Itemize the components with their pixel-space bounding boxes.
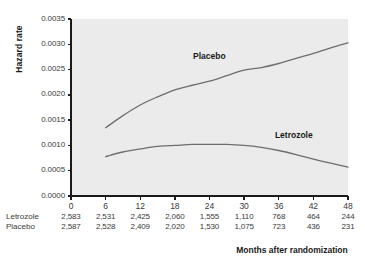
x-axis-title: Months after randomization [222, 245, 362, 255]
series-label-placebo: Placebo [193, 51, 226, 61]
risk-cell: 231 [331, 222, 365, 231]
x-tick-label: 12 [125, 201, 155, 211]
risk-cell: 436 [296, 222, 330, 231]
risk-cell: 2,060 [158, 212, 192, 221]
risk-cell: 2,020 [158, 222, 192, 231]
risk-cell: 244 [331, 212, 365, 221]
y-tick-label: 0.0020 [23, 89, 65, 98]
y-tick-label: 0.0015 [23, 115, 65, 124]
risk-cell: 2,587 [54, 222, 88, 231]
y-tick-label: 0.0000 [23, 191, 65, 200]
risk-cell: 464 [296, 212, 330, 221]
x-tick-label: 0 [56, 201, 86, 211]
risk-cell: 1,555 [193, 212, 227, 221]
hazard-rate-chart: Hazard rate 0.00000.00050.00100.00150.00… [0, 0, 365, 268]
risk-cell: 723 [262, 222, 296, 231]
y-tick-label: 0.0005 [23, 165, 65, 174]
x-tick-label: 36 [264, 201, 294, 211]
y-tick-label: 0.0035 [23, 14, 65, 23]
x-tick-label: 30 [229, 201, 259, 211]
risk-cell: 768 [262, 212, 296, 221]
x-tick-label: 48 [333, 201, 363, 211]
y-tick-label: 0.0030 [23, 39, 65, 48]
x-tick-label: 24 [195, 201, 225, 211]
risk-cell: 2,409 [123, 222, 157, 231]
risk-cell: 1,110 [227, 212, 261, 221]
risk-cell: 1,530 [193, 222, 227, 231]
y-tick-label: 0.0010 [23, 140, 65, 149]
risk-cell: 2,531 [89, 212, 123, 221]
risk-cell: 2,425 [123, 212, 157, 221]
x-tick-label: 6 [91, 201, 121, 211]
plot-area-background [71, 19, 348, 196]
risk-cell: 2,583 [54, 212, 88, 221]
x-tick-label: 18 [160, 201, 190, 211]
risk-cell: 2,528 [89, 222, 123, 231]
x-tick-label: 42 [298, 201, 328, 211]
series-label-letrozole: Letrozole [275, 130, 313, 140]
y-tick-label: 0.0025 [23, 64, 65, 73]
risk-cell: 1,075 [227, 222, 261, 231]
